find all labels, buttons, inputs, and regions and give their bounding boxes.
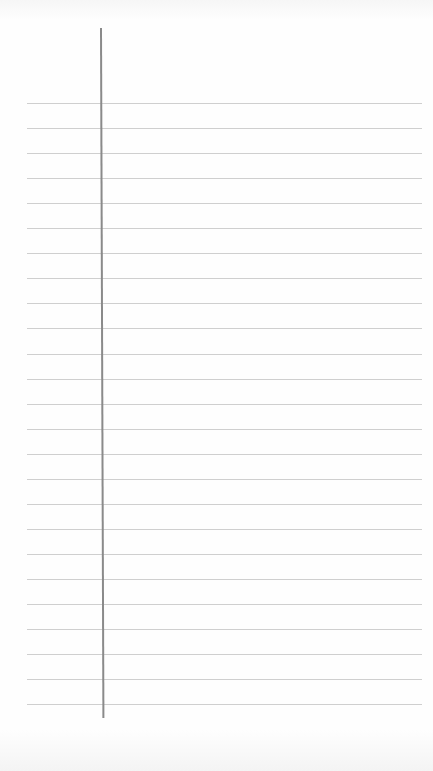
ruled-line <box>27 253 422 254</box>
margin-line <box>100 28 104 718</box>
ruled-line <box>27 679 422 680</box>
ruled-line <box>27 278 422 279</box>
ruled-line <box>27 228 422 229</box>
ruled-line <box>27 178 422 179</box>
ruled-line <box>27 203 422 204</box>
lined-paper <box>0 0 433 771</box>
ruled-line <box>27 629 422 630</box>
ruled-line <box>27 579 422 580</box>
ruled-line <box>27 429 422 430</box>
ruled-line <box>27 354 422 355</box>
ruled-line <box>27 479 422 480</box>
ruled-line <box>27 554 422 555</box>
ruled-line <box>27 454 422 455</box>
ruled-line <box>27 379 422 380</box>
ruled-line <box>27 404 422 405</box>
ruled-line <box>27 103 422 104</box>
ruled-line <box>27 128 422 129</box>
ruled-line <box>27 654 422 655</box>
ruled-line <box>27 153 422 154</box>
ruled-line <box>27 529 422 530</box>
ruled-line <box>27 328 422 329</box>
ruled-line <box>27 504 422 505</box>
ruled-line <box>27 604 422 605</box>
ruled-line <box>27 303 422 304</box>
ruled-line <box>27 704 422 705</box>
